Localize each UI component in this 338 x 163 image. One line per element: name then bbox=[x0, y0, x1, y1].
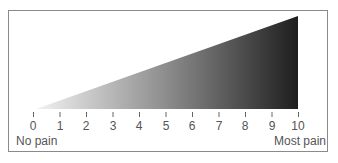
tick-label-2: 2 bbox=[76, 119, 96, 133]
pain-gradient-wedge bbox=[36, 16, 298, 109]
tick-label-10: 10 bbox=[288, 119, 308, 133]
tick-label-8: 8 bbox=[235, 119, 255, 133]
most-pain-label: Most pain bbox=[274, 134, 326, 148]
tick-label-1: 1 bbox=[50, 119, 70, 133]
tick-label-0: 0 bbox=[23, 119, 43, 133]
tick-label-3: 3 bbox=[103, 119, 123, 133]
tick-label-7: 7 bbox=[209, 119, 229, 133]
no-pain-label: No pain bbox=[16, 134, 57, 148]
tick-label-6: 6 bbox=[182, 119, 202, 133]
tick-marks bbox=[34, 112, 299, 117]
tick-label-5: 5 bbox=[156, 119, 176, 133]
tick-label-4: 4 bbox=[129, 119, 149, 133]
tick-label-9: 9 bbox=[262, 119, 282, 133]
